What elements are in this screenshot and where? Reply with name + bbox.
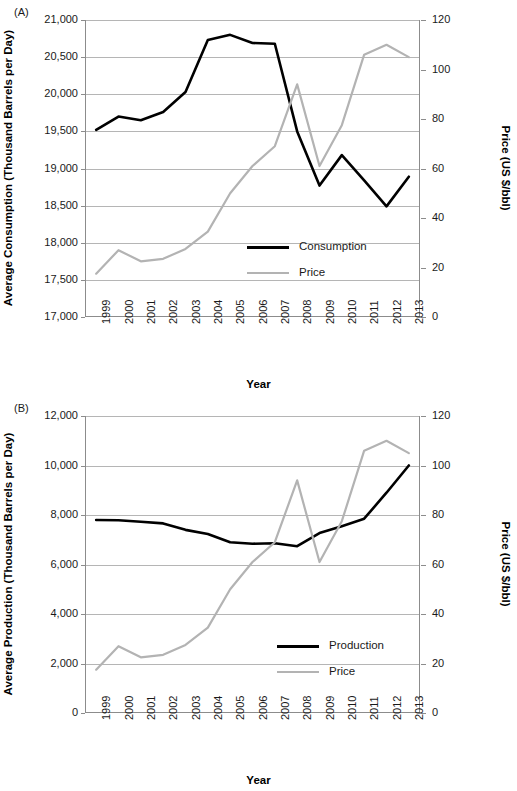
y-tick-label-right: 120	[432, 14, 482, 25]
y-tick-mark-right	[421, 466, 426, 467]
y-tick-label-left: 17,000	[18, 311, 78, 322]
y-tick-mark-left	[81, 466, 85, 467]
panel-a-y-axis-title-right: Price (US $/bbl)	[500, 18, 512, 318]
x-tick-label: 2013	[414, 696, 425, 720]
y-tick-mark-left	[81, 565, 85, 566]
panel-b-x-axis-title: Year	[0, 774, 517, 786]
y-tick-mark-right	[421, 416, 426, 417]
x-tick-label: 2001	[146, 300, 157, 324]
y-tick-label-right: 40	[432, 608, 482, 619]
y-tick-mark-right	[421, 20, 426, 21]
y-tick-mark-left	[81, 131, 85, 132]
legend-swatch-price	[247, 272, 289, 274]
y-tick-label-right: 120	[432, 410, 482, 421]
panel-b-plot-svg	[85, 416, 420, 713]
panel-b-y-axis-title-right: Price (US $/bbl)	[500, 414, 512, 714]
y-tick-mark-left	[81, 713, 85, 714]
panel-a-x-axis-title: Year	[0, 378, 517, 390]
y-tick-mark-left	[81, 515, 85, 516]
y-tick-label-left: 19,000	[18, 163, 78, 174]
y-tick-label-left: 18,000	[18, 237, 78, 248]
y-tick-mark-left	[81, 317, 85, 318]
panel-a-y-axis-title-left: Average Consumption (Thousand Barrels pe…	[2, 18, 14, 318]
y-tick-label-left: 20,000	[18, 88, 78, 99]
legend-label-price: Price	[299, 266, 325, 278]
legend-label-production: Production	[329, 639, 384, 651]
x-tick-label: 2004	[213, 300, 224, 324]
y-tick-mark-left	[81, 416, 85, 417]
x-tick-label: 2003	[191, 300, 202, 324]
x-tick-label: 2007	[280, 300, 291, 324]
y-tick-label-right: 0	[432, 311, 482, 322]
legend-swatch-production	[277, 645, 319, 648]
x-tick-label: 2009	[325, 696, 336, 720]
y-tick-mark-left	[81, 20, 85, 21]
legend-swatch-price	[277, 671, 319, 673]
x-tick-label: 2001	[146, 696, 157, 720]
x-tick-label: 2011	[369, 696, 380, 720]
x-tick-label: 2010	[347, 300, 358, 324]
y-tick-mark-right	[421, 565, 426, 566]
x-tick-label: 2012	[392, 300, 403, 324]
x-tick-label: 2002	[168, 300, 179, 324]
y-tick-label-right: 40	[432, 212, 482, 223]
y-tick-label-right: 80	[432, 113, 482, 124]
x-tick-label: 2003	[191, 696, 202, 720]
x-tick-label: 2011	[369, 300, 380, 324]
y-tick-mark-right	[421, 70, 426, 71]
series-line-price	[96, 441, 409, 670]
panel-a: (A) Average Consumption (Thousand Barrel…	[0, 0, 517, 396]
x-tick-label: 2008	[302, 696, 313, 720]
x-tick-label: 1999	[101, 696, 112, 720]
y-tick-label-right: 0	[432, 707, 482, 718]
y-tick-label-left: 6,000	[18, 559, 78, 570]
x-tick-label: 2002	[168, 696, 179, 720]
y-tick-mark-right	[421, 169, 426, 170]
x-tick-label: 2000	[124, 300, 135, 324]
x-tick-label: 2008	[302, 300, 313, 324]
y-tick-label-left: 20,500	[18, 51, 78, 62]
y-tick-label-right: 100	[432, 64, 482, 75]
y-tick-label-left: 17,500	[18, 274, 78, 285]
x-tick-label: 2013	[414, 300, 425, 324]
panel-b-plot-area	[85, 416, 420, 713]
y-tick-mark-left	[81, 57, 85, 58]
legend-swatch-consumption	[247, 246, 289, 249]
y-tick-label-right: 80	[432, 509, 482, 520]
y-tick-label-left: 8,000	[18, 509, 78, 520]
y-tick-label-right: 60	[432, 163, 482, 174]
y-tick-mark-right	[421, 268, 426, 269]
y-tick-label-left: 19,500	[18, 125, 78, 136]
legend-label-consumption: Consumption	[299, 240, 367, 252]
x-tick-label: 2006	[258, 300, 269, 324]
x-tick-label: 2012	[392, 696, 403, 720]
legend-label-price: Price	[329, 665, 355, 677]
y-tick-mark-left	[81, 243, 85, 244]
x-tick-label: 2005	[235, 300, 246, 324]
y-tick-label-left: 12,000	[18, 410, 78, 421]
y-tick-label-left: 2,000	[18, 658, 78, 669]
y-tick-mark-left	[81, 280, 85, 281]
panel-b-y-axis-title-left: Average Production (Thousand Barrels per…	[2, 414, 14, 714]
panel-b: (B) Average Production (Thousand Barrels…	[0, 396, 517, 791]
y-tick-mark-right	[421, 119, 426, 120]
y-tick-mark-right	[421, 614, 426, 615]
x-tick-label: 1999	[101, 300, 112, 324]
x-tick-label: 2010	[347, 696, 358, 720]
y-tick-label-left: 18,500	[18, 200, 78, 211]
x-tick-label: 2005	[235, 696, 246, 720]
y-tick-mark-left	[81, 664, 85, 665]
figure-page: (A) Average Consumption (Thousand Barrel…	[0, 0, 517, 791]
series-line-production	[96, 466, 409, 547]
y-tick-mark-left	[81, 206, 85, 207]
y-tick-mark-right	[421, 218, 426, 219]
y-tick-mark-right	[421, 515, 426, 516]
x-tick-label: 2009	[325, 300, 336, 324]
y-tick-label-right: 20	[432, 262, 482, 273]
x-tick-label: 2004	[213, 696, 224, 720]
y-tick-mark-left	[81, 169, 85, 170]
y-tick-label-left: 4,000	[18, 608, 78, 619]
x-tick-label: 2006	[258, 696, 269, 720]
x-tick-label: 2007	[280, 696, 291, 720]
x-tick-label: 2000	[124, 696, 135, 720]
